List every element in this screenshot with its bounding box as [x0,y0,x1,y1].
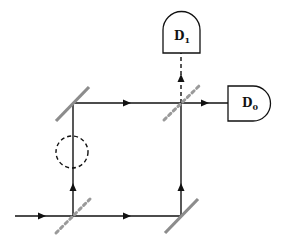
upper-beam [73,100,228,107]
d1-output-beam [178,53,185,103]
d1-subscript: 1 [184,35,190,45]
left-vertical-beam [70,103,77,216]
obstacle-dashed-circle [56,136,88,168]
right-vertical-beam [178,103,185,216]
lower-beam [73,213,181,220]
input-beam [15,213,73,220]
d1-label: D [174,29,184,43]
d0-label: D [242,96,252,110]
interferometer-diagram: D1 D0 [0,0,284,248]
d0-subscript: 0 [252,102,258,112]
detector-d0: D0 [228,86,271,121]
detector-d1: D1 [163,12,200,54]
